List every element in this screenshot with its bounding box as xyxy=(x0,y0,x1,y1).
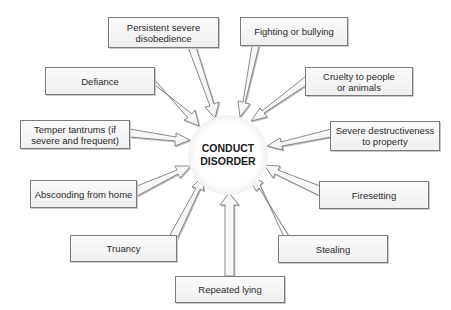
arrow-lying xyxy=(220,193,239,276)
arrow-persistent xyxy=(188,47,219,118)
node-repeated-lying: Repeated lying xyxy=(175,276,285,303)
node-firesetting: Firesetting xyxy=(319,181,429,209)
arrow-stealing xyxy=(249,177,290,238)
hub-line-2: DISORDER xyxy=(200,155,255,168)
arrow-firesetting xyxy=(264,165,320,196)
arrow-defiance xyxy=(152,77,199,126)
node-stealing: Stealing xyxy=(278,235,388,263)
conduct-disorder-diagram: CONDUCT DISORDER Persistent severe disob… xyxy=(0,0,451,310)
node-truancy: Truancy xyxy=(70,235,177,262)
node-destructiveness: Severe destructiveness to property xyxy=(330,121,440,151)
node-cruelty: Cruelty to people or animals xyxy=(305,67,413,96)
arrow-absconding xyxy=(137,166,191,196)
node-fighting-bullying: Fighting or bullying xyxy=(240,17,348,46)
arrow-tantrums xyxy=(130,129,190,146)
hub-line-1: CONDUCT xyxy=(202,142,255,155)
node-persistent-disobedience: Persistent severe disobedience xyxy=(108,17,219,48)
arrow-fighting xyxy=(238,46,259,117)
node-defiance: Defiance xyxy=(45,67,155,95)
conduct-disorder-hub: CONDUCT DISORDER xyxy=(188,115,268,195)
arrow-destructive xyxy=(267,129,331,150)
arrow-cruelty xyxy=(251,76,308,121)
arrow-truancy xyxy=(170,177,204,239)
node-absconding: Absconding from home xyxy=(30,180,137,208)
node-temper-tantrums: Temper tantrums (if severe and frequent) xyxy=(20,120,130,149)
